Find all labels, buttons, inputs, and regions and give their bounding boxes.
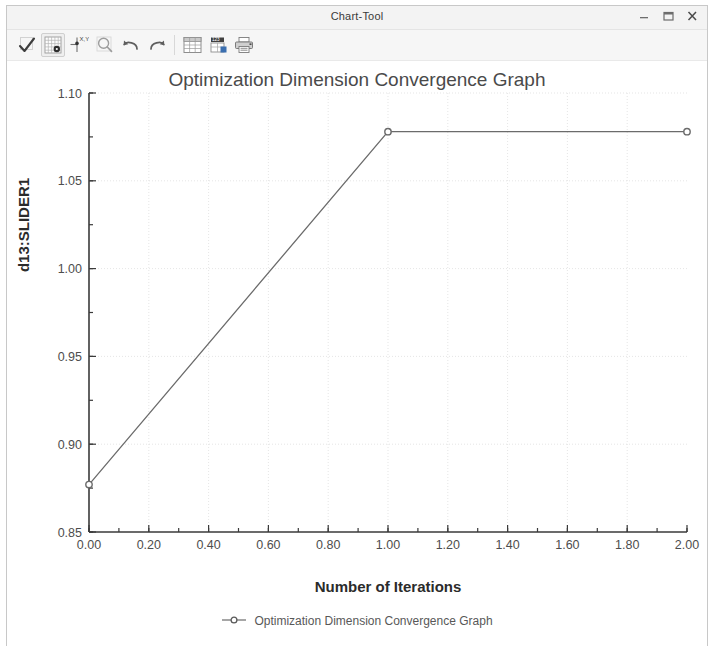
svg-text:0.90: 0.90: [58, 438, 82, 452]
svg-text:1.20: 1.20: [436, 538, 460, 552]
svg-text:1.05: 1.05: [58, 174, 82, 188]
grid-settings-button[interactable]: [41, 33, 65, 57]
svg-text:0.20: 0.20: [137, 538, 161, 552]
svg-text:0.00: 0.00: [77, 538, 101, 552]
window-controls: [638, 9, 699, 23]
minimize-button[interactable]: [638, 9, 651, 23]
undo-button[interactable]: [119, 33, 143, 57]
close-button[interactable]: [686, 9, 699, 23]
svg-text:X,Y: X,Y: [80, 36, 90, 42]
svg-text:0.95: 0.95: [58, 350, 82, 364]
svg-text:0.85: 0.85: [58, 526, 82, 540]
undo-arrow-icon: [121, 35, 141, 55]
toolbar-separator: [174, 35, 175, 55]
title-bar: Chart-Tool: [7, 6, 707, 30]
maximize-button[interactable]: [662, 9, 675, 23]
print-button[interactable]: [232, 33, 256, 57]
spreadsheet-icon: 123: [209, 36, 228, 54]
redo-button[interactable]: [145, 33, 169, 57]
data-export-button[interactable]: 123: [206, 33, 230, 57]
window-title: Chart-Tool: [7, 10, 707, 22]
svg-text:1.00: 1.00: [58, 262, 82, 276]
svg-text:0.80: 0.80: [316, 538, 340, 552]
legend-marker-icon: [221, 612, 247, 630]
svg-text:1.40: 1.40: [495, 538, 519, 552]
axis-xy-icon: X,Y: [69, 35, 89, 55]
svg-text:0.40: 0.40: [196, 538, 220, 552]
x-axis-title: Number of Iterations: [89, 578, 687, 595]
svg-text:1.80: 1.80: [615, 538, 639, 552]
checkmark-icon: [17, 35, 37, 55]
chart-canvas[interactable]: Optimization Dimension Convergence Graph…: [7, 61, 707, 647]
printer-icon: [234, 36, 254, 54]
svg-text:2.00: 2.00: [675, 538, 699, 552]
grid-icon: [44, 36, 62, 54]
svg-text:1.60: 1.60: [555, 538, 579, 552]
axis-settings-button[interactable]: X,Y: [67, 33, 91, 57]
toolbar: X,Y: [7, 30, 707, 61]
svg-text:0.60: 0.60: [256, 538, 280, 552]
magnifier-icon: [95, 35, 115, 55]
svg-text:1.10: 1.10: [58, 87, 82, 101]
select-check-button[interactable]: [15, 33, 39, 57]
chart-legend: Optimization Dimension Convergence Graph: [7, 612, 707, 630]
legend-label: Optimization Dimension Convergence Graph: [254, 614, 492, 628]
chart-plot: 0.000.200.400.600.801.001.201.401.601.80…: [7, 61, 707, 647]
zoom-button[interactable]: [93, 33, 117, 57]
svg-text:1.00: 1.00: [376, 538, 400, 552]
svg-text:123: 123: [212, 37, 220, 42]
table-view-button[interactable]: [180, 33, 204, 57]
redo-arrow-icon: [147, 35, 167, 55]
table-icon: [183, 36, 202, 54]
chart-tool-window: Chart-Tool: [6, 5, 708, 646]
